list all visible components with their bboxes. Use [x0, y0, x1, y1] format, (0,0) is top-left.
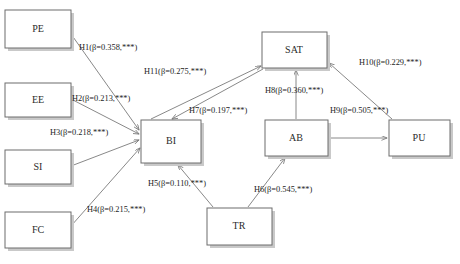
- path-diagram-canvas: PE EE SI FC BI SAT AB PU TR: [0, 0, 460, 264]
- edge-label-h1: H1(β=0.358,***): [79, 43, 138, 52]
- edge-label-h10: H10(β=0.229,***): [359, 58, 422, 67]
- node-pe[interactable]: PE: [5, 10, 74, 51]
- edge-line-h6: [248, 158, 285, 207]
- node-si-label: SI: [34, 161, 43, 172]
- edge-label-h6: H6(β=0.545,***): [254, 185, 313, 194]
- edge-line-h4: [71, 148, 140, 226]
- node-pu[interactable]: PU: [389, 120, 453, 159]
- edge-label-h2: H2(β=0.213,***): [72, 94, 131, 103]
- node-ab[interactable]: AB: [265, 120, 331, 159]
- edge-label-h11: H11(β=0.275,***): [144, 67, 206, 76]
- node-tr-label: TR: [233, 220, 246, 231]
- node-pu-label: PU: [413, 132, 427, 143]
- edge-label-h4: H4(β=0.215,***): [87, 205, 146, 214]
- node-sat[interactable]: SAT: [262, 32, 330, 71]
- edge-label-h7: H7(β=0.197,***): [189, 106, 248, 115]
- edge-lines: [71, 34, 392, 226]
- node-ee[interactable]: EE: [5, 83, 74, 120]
- node-si[interactable]: SI: [5, 150, 74, 187]
- node-fc[interactable]: FC: [5, 212, 74, 251]
- edge-label-h8: H8(β=0.360,***): [265, 86, 324, 95]
- node-bi-label: BI: [166, 135, 176, 146]
- node-tr[interactable]: TR: [207, 208, 275, 248]
- node-sat-label: SAT: [285, 44, 303, 55]
- edge-label-h3: H3(β=0.218,***): [50, 128, 109, 137]
- node-ee-label: EE: [32, 94, 44, 105]
- edge-label-h5: H5(β=0.110,***): [148, 179, 206, 188]
- node-ab-label: AB: [289, 132, 303, 143]
- node-bi[interactable]: BI: [141, 120, 204, 166]
- edge-line-h3: [71, 140, 139, 166]
- edge-label-h9: H9(β=0.505,***): [330, 106, 389, 115]
- node-fc-label: FC: [32, 224, 45, 235]
- node-pe-label: PE: [32, 23, 44, 34]
- edge-labels: H1(β=0.358,***) H2(β=0.213,***) H3(β=0.2…: [50, 43, 422, 214]
